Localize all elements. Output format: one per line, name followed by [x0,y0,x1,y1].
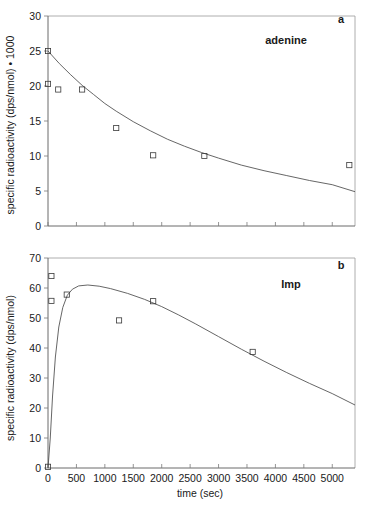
b-xtick-3000: 3000 [207,472,231,484]
a-ytick-0: 0 [35,220,41,232]
a-ytick-20: 20 [29,80,41,92]
b-data-point [49,273,54,278]
imp-y-tick-labels: 010203040506070 [29,252,41,474]
b-ytick-60: 60 [29,282,41,294]
adenine-y-tick-labels: 051015202530 [29,10,41,232]
b-xtick-4000: 4000 [264,472,288,484]
imp-series-label: Imp [281,278,301,290]
x-axis-title: time (sec) [177,487,223,499]
imp-plot: 010203040506070 050010001500200025003000… [0,250,369,511]
adenine-y-axis-title: specific radioactivity (dps/nmol) • 1000 [4,35,16,214]
a-data-point [80,87,85,92]
b-ytick-30: 30 [29,372,41,384]
b-xtick-1500: 1500 [122,472,146,484]
imp-data-points [45,273,255,469]
adenine-axis-ticks [44,16,332,226]
imp-y-axis-title: specific radioactivity (dps/nmol) [4,295,16,441]
b-xtick-0: 0 [45,472,51,484]
b-fit-line [48,285,355,468]
a-data-point [151,153,156,158]
adenine-plot-frame [48,16,355,226]
adenine-panel-letter: a [338,13,345,25]
panel-imp: 010203040506070 050010001500200025003000… [0,250,369,511]
b-ytick-70: 70 [29,252,41,264]
a-data-point [56,87,61,92]
imp-plot-frame [48,258,355,468]
a-fit-line [48,51,355,192]
a-ytick-30: 30 [29,10,41,22]
a-ytick-15: 15 [29,115,41,127]
a-ytick-25: 25 [29,45,41,57]
adenine-plot: 051015202530 specific radioactivity (dps… [0,0,369,250]
b-xtick-4500: 4500 [292,472,316,484]
b-xtick-3500: 3500 [235,472,259,484]
b-xtick-2000: 2000 [150,472,174,484]
b-xtick-2500: 2500 [178,472,202,484]
a-ytick-10: 10 [29,150,41,162]
b-data-point [116,318,121,323]
a-data-point [114,125,119,130]
b-xtick-500: 500 [68,472,86,484]
b-xtick-5000: 5000 [321,472,345,484]
b-ytick-50: 50 [29,312,41,324]
b-ytick-10: 10 [29,432,41,444]
a-ytick-5: 5 [35,185,41,197]
a-data-point [347,163,352,168]
imp-fitted-curve [48,285,355,468]
adenine-series-label: adenine [265,34,307,46]
b-data-point [250,349,255,354]
adenine-data-points [45,48,352,167]
adenine-fitted-curve [48,51,355,192]
imp-x-tick-labels: 0500100015002000250030003500400045005000 [45,472,344,484]
b-data-point [49,298,54,303]
figure-container: 051015202530 specific radioactivity (dps… [0,0,369,511]
b-xtick-1000: 1000 [93,472,117,484]
imp-panel-letter: b [338,259,345,271]
panel-adenine: 051015202530 specific radioactivity (dps… [0,0,369,250]
b-ytick-0: 0 [35,462,41,474]
b-ytick-20: 20 [29,402,41,414]
b-ytick-40: 40 [29,342,41,354]
